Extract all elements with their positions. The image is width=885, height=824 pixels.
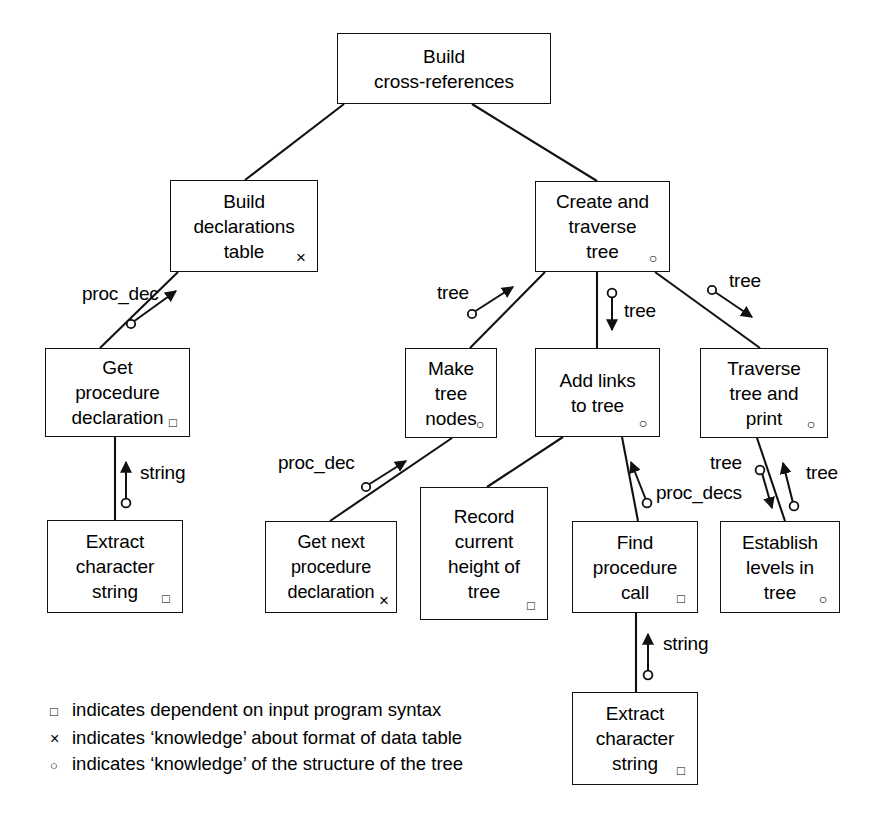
node-establish-levels-in-tree[interactable]: Establish levels in tree ○	[720, 521, 840, 613]
edge-add-links-record-height	[487, 437, 563, 487]
legend-label: indicates ‘knowledge’ about format of da…	[72, 725, 462, 751]
marker-square-icon: □	[674, 591, 688, 607]
flow-tail-string-2	[644, 671, 653, 680]
flow-label-string-2: string	[663, 633, 708, 655]
node-extract-character-string-2[interactable]: Extract character string □	[572, 692, 698, 785]
legend-row-square: □ indicates dependent on input program s…	[50, 697, 463, 725]
node-get-procedure-declaration[interactable]: Get procedure declaration □	[45, 348, 190, 437]
structure-chart: Build cross-references Build declaration…	[0, 0, 885, 824]
legend-square-icon: □	[50, 699, 72, 725]
flow-tail-proc-dec-2	[362, 483, 370, 491]
legend-label: indicates dependent on input program syn…	[72, 697, 441, 723]
marker-circle-icon: ○	[804, 416, 818, 432]
flow-label-tree-4: tree	[710, 452, 742, 474]
edge-root-create-traverse	[472, 104, 597, 181]
legend: □ indicates dependent on input program s…	[50, 697, 463, 779]
flow-arrow-tree-3	[715, 292, 752, 317]
flow-arrow-proc-dec-2	[368, 461, 406, 485]
flow-label-string-1: string	[140, 462, 185, 484]
node-find-procedure-call[interactable]: Find procedure call □	[572, 521, 698, 613]
node-label: Extract character string	[70, 529, 160, 604]
flow-tail-string-1	[122, 499, 131, 508]
flow-label-proc-decs: proc_decs	[656, 482, 742, 504]
node-label: Create and traverse tree	[550, 189, 655, 264]
marker-square-icon: □	[524, 598, 538, 614]
flow-label-proc-dec-1: proc_dec	[82, 283, 159, 305]
node-label: Traverse tree and print	[721, 356, 806, 431]
marker-x-icon: ×	[377, 593, 391, 609]
marker-circle-icon: ○	[636, 415, 650, 431]
node-label: Get next procedure declaration	[282, 530, 381, 605]
flow-arrow-tree-4	[762, 473, 772, 508]
node-get-next-procedure-declaration[interactable]: Get next procedure declaration ×	[265, 521, 397, 613]
marker-square-icon: □	[159, 591, 173, 607]
node-record-current-height-of-tree[interactable]: Record current height of tree □	[420, 487, 548, 620]
marker-circle-icon: ○	[816, 591, 830, 607]
edge-add-links-find-call	[622, 437, 638, 521]
edge-root-build-declarations	[245, 104, 344, 180]
flow-label-tree-5: tree	[806, 462, 838, 484]
flow-tail-tree-1	[468, 310, 476, 318]
legend-circle-icon: ○	[50, 753, 72, 779]
node-label: Build declarations table	[187, 189, 300, 264]
marker-square-icon: □	[166, 415, 180, 431]
flow-label-tree-1: tree	[437, 282, 469, 304]
node-extract-character-string-1[interactable]: Extract character string □	[47, 520, 183, 613]
node-label: Add links to tree	[553, 368, 641, 418]
marker-circle-icon: ○	[473, 416, 487, 432]
flow-tail-tree-2	[608, 289, 617, 298]
flow-arrow-tree-1	[474, 287, 513, 312]
flow-label-tree-3: tree	[729, 270, 761, 292]
flow-tail-tree-4	[756, 466, 765, 475]
flow-arrow-tree-5	[783, 463, 793, 503]
node-label: Record current height of tree	[442, 504, 526, 604]
flow-tail-proc-decs	[643, 499, 652, 508]
flow-tail-tree-5	[790, 502, 799, 511]
node-add-links-to-tree[interactable]: Add links to tree ○	[535, 348, 660, 437]
marker-square-icon: □	[674, 763, 688, 779]
node-make-tree-nodes[interactable]: Make tree nodes ○	[405, 348, 497, 438]
legend-row-cross: × indicates ‘knowledge’ about format of …	[50, 725, 463, 752]
legend-row-circle: ○ indicates ‘knowledge’ of the structure…	[50, 751, 463, 779]
node-label: Build cross-references	[368, 44, 520, 94]
flow-label-proc-dec-2: proc_dec	[278, 452, 355, 474]
marker-circle-icon: ○	[646, 250, 660, 266]
node-create-and-traverse-tree[interactable]: Create and traverse tree ○	[535, 181, 670, 272]
flow-tail-tree-3	[708, 286, 716, 294]
node-label: Extract character string	[590, 701, 680, 776]
flow-tail-proc-dec-1	[127, 320, 135, 328]
node-label: Establish levels in tree	[736, 530, 824, 605]
legend-label: indicates ‘knowledge’ of the structure o…	[72, 751, 463, 777]
node-traverse-tree-and-print[interactable]: Traverse tree and print ○	[700, 348, 828, 438]
flow-arrow-proc-decs	[631, 462, 646, 500]
edge-create-traverse-make-nodes	[470, 272, 545, 348]
marker-x-icon: ×	[294, 250, 308, 266]
node-build-declarations-table[interactable]: Build declarations table ×	[170, 180, 318, 272]
legend-x-icon: ×	[50, 726, 72, 752]
node-label: Find procedure call	[587, 530, 684, 605]
node-build-cross-references[interactable]: Build cross-references	[337, 33, 551, 104]
edge-traverse-print-establish-levels	[757, 438, 785, 521]
flow-label-tree-2: tree	[624, 300, 656, 322]
node-label: Get procedure declaration	[66, 355, 170, 430]
